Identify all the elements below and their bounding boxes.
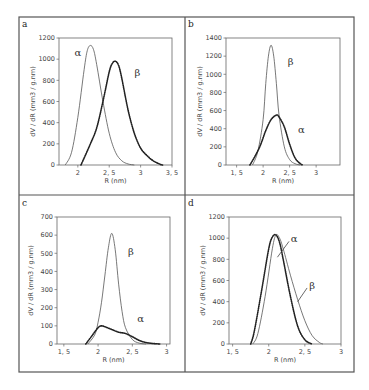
y-tick-label: 0 <box>218 161 222 169</box>
y-tick-label: 600 <box>43 98 55 106</box>
x-tick-label: 2 <box>261 169 265 177</box>
y-tick-label: 600 <box>213 277 225 285</box>
y-tick-label: 600 <box>210 107 222 115</box>
x-tick-label: 2 <box>96 348 100 356</box>
x-tick-label: 3, 5 <box>166 169 178 177</box>
y-tick-label: 400 <box>43 119 55 127</box>
y-tick-label: 0 <box>221 340 225 348</box>
y-tick-label: 200 <box>213 319 225 327</box>
annotation-pointer <box>277 241 289 257</box>
x-tick-label: 2, 5 <box>103 169 115 177</box>
panel-letter: c <box>22 198 27 208</box>
x-tick-label: 3 <box>339 348 343 356</box>
x-axis-label: R (nm) <box>102 356 124 364</box>
y-tick-label: 100 <box>41 322 53 330</box>
x-axis-label: R (nm) <box>272 177 294 185</box>
panel-letter: d <box>188 198 194 208</box>
panel-c: c01002003004005006007001, 522, 53R (nm)d… <box>22 198 170 364</box>
y-tick-label: 1000 <box>205 71 222 79</box>
y-tick-label: 1200 <box>38 34 55 42</box>
panel-letter: b <box>188 19 194 29</box>
panel-d: d0200400600800100012001, 522, 53R (nm)dV… <box>188 198 343 364</box>
x-tick-label: 3 <box>139 169 143 177</box>
y-tick-label: 400 <box>41 268 53 276</box>
y-tick-label: 1000 <box>208 234 225 242</box>
series-alpha-curve <box>251 235 312 344</box>
x-tick-label: 3 <box>165 348 169 356</box>
panel-letter: a <box>22 19 28 29</box>
series-label: α <box>137 313 144 324</box>
y-tick-label: 600 <box>41 231 53 239</box>
series-alpha-curve <box>250 115 303 165</box>
y-axis-label: dV / dR (mm3 / g.nm) <box>27 245 35 315</box>
x-tick-label: 2 <box>76 169 80 177</box>
series-label: β <box>135 67 141 78</box>
series-beta-curve <box>88 233 146 344</box>
plot-area <box>229 217 341 344</box>
series-label: α <box>291 233 298 244</box>
series-label: β <box>309 280 315 291</box>
series-label: α <box>298 124 305 135</box>
y-tick-label: 1400 <box>205 34 222 42</box>
x-tick-label: 1, 5 <box>226 348 238 356</box>
y-axis-label: dV / dR (mm3 / g.nm) <box>196 66 204 136</box>
x-tick-label: 2, 5 <box>126 348 138 356</box>
x-tick-label: 2, 5 <box>299 348 311 356</box>
series-beta-curve <box>81 61 163 165</box>
series-label: β <box>288 56 294 67</box>
y-axis-label: dV / dR (mm3 / g.nm) <box>199 245 207 315</box>
x-axis-label: R (nm) <box>104 177 126 185</box>
figure: a02004006008001000120022, 533, 5R (nm)dV… <box>0 0 369 390</box>
series-alpha-curve <box>65 45 134 165</box>
plot-area <box>226 38 340 165</box>
x-tick-label: 1, 5 <box>58 348 70 356</box>
y-tick-label: 700 <box>41 213 53 221</box>
y-tick-label: 0 <box>51 161 55 169</box>
panel-a: a02004006008001000120022, 533, 5R (nm)dV… <box>22 19 178 185</box>
x-tick-label: 2 <box>267 348 271 356</box>
y-tick-label: 500 <box>41 250 53 258</box>
y-tick-label: 1000 <box>38 55 55 63</box>
x-tick-label: 1, 5 <box>230 169 242 177</box>
y-tick-label: 300 <box>41 286 53 294</box>
y-tick-label: 1200 <box>208 213 225 221</box>
series-label: β <box>128 246 134 257</box>
annotation-pointer <box>298 288 307 302</box>
x-tick-label: 3 <box>314 169 318 177</box>
y-tick-label: 800 <box>213 256 225 264</box>
y-tick-label: 200 <box>43 140 55 148</box>
panel-b: b02004006008001000120014001, 522, 53R (n… <box>188 19 340 185</box>
y-axis-label: dV / dR (mm3 / g.nm) <box>29 66 37 136</box>
y-tick-label: 400 <box>213 298 225 306</box>
y-tick-label: 800 <box>43 77 55 85</box>
x-axis-label: R (nm) <box>274 356 296 364</box>
series-alpha-curve <box>86 326 160 344</box>
plot-area <box>57 217 170 344</box>
y-tick-label: 1200 <box>205 52 222 60</box>
y-tick-label: 0 <box>49 340 53 348</box>
y-tick-label: 200 <box>41 304 53 312</box>
y-tick-label: 800 <box>210 89 222 97</box>
y-tick-label: 200 <box>210 143 222 151</box>
series-label: α <box>74 47 81 58</box>
y-tick-label: 400 <box>210 125 222 133</box>
x-tick-label: 2, 5 <box>283 169 295 177</box>
